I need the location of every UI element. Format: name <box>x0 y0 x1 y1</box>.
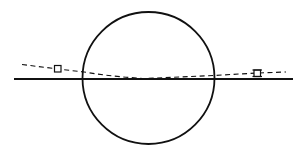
right-marker <box>253 70 263 77</box>
left-marker <box>55 66 62 73</box>
diagram-canvas <box>0 0 308 151</box>
circle <box>83 12 215 144</box>
